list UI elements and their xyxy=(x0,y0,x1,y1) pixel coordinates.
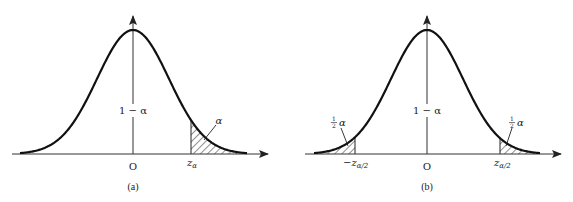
critical-value-label: zα xyxy=(186,157,197,170)
right-critical-value-label: zα/2 xyxy=(493,157,511,170)
origin-label: O xyxy=(129,160,137,172)
tail-area-label: α xyxy=(216,115,223,126)
right-tail-alpha: α xyxy=(517,117,524,128)
left-tail-area-label: 1 2 α xyxy=(331,115,346,129)
left-tail-alpha: α xyxy=(339,117,346,128)
half-numerator: 1 xyxy=(510,115,514,122)
left-critical-value-label: −zα/2 xyxy=(343,157,369,170)
center-area-label: 1 − α xyxy=(119,105,147,116)
right-tail-area-label: 1 2 α xyxy=(509,115,524,129)
panel-caption: (a) xyxy=(127,181,138,193)
alpha-leader-line xyxy=(204,125,216,140)
panel-b: 1 − α 1 2 α 1 2 α −zα/2 zα/2 O (b) xyxy=(305,16,561,193)
normal-distribution-figure: 1 − α α zα O (a) 1 − α 1 2 α 1 xyxy=(0,0,573,202)
half-denominator: 2 xyxy=(510,122,514,129)
panel-caption: (b) xyxy=(421,181,433,193)
center-area-label: 1 − α xyxy=(413,105,441,116)
left-alpha-leader-line xyxy=(341,128,348,146)
right-alpha-leader-line xyxy=(506,128,512,146)
panel-a: 1 − α α zα O (a) xyxy=(12,16,268,193)
origin-label: O xyxy=(423,160,431,172)
half-denominator: 2 xyxy=(332,122,336,129)
half-numerator: 1 xyxy=(332,115,336,122)
